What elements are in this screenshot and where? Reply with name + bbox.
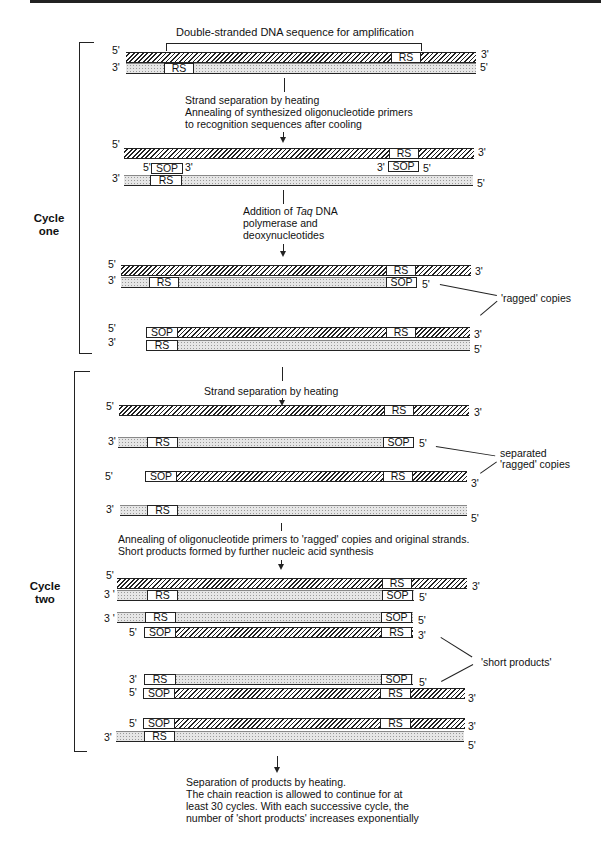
flow-line bbox=[284, 78, 285, 92]
short-products-label: 'short products' bbox=[481, 656, 552, 668]
diagram-title: Double-stranded DNA sequence for amplifi… bbox=[176, 26, 414, 38]
cycle-one-number: one bbox=[24, 225, 74, 238]
cycle-two-label: Cycle two bbox=[20, 580, 70, 606]
title-bracket bbox=[166, 43, 422, 44]
ragged-copy-strand: SOP RS bbox=[144, 718, 465, 729]
step4-line: Annealing of oligonucleotide primers to … bbox=[118, 533, 469, 545]
step2-text: Addition of Taq DNA polymerase and deoxy… bbox=[243, 205, 338, 241]
sop-box: SOP bbox=[146, 327, 178, 338]
ragged-leader-line bbox=[440, 284, 497, 296]
end-label: 5' bbox=[143, 161, 151, 173]
end-label: 3' bbox=[108, 336, 116, 348]
cycle-two-bracket-bottom bbox=[74, 751, 87, 752]
cycle-one-word: Cycle bbox=[24, 212, 74, 225]
ragged-copy-strand: SOP RS bbox=[144, 688, 465, 699]
final-line: number of 'short products' increases exp… bbox=[186, 812, 419, 824]
end-label: 3' bbox=[478, 146, 486, 158]
rs-box: RS bbox=[144, 674, 176, 685]
end-label: 3' bbox=[474, 406, 482, 418]
short-products-leader bbox=[440, 637, 472, 657]
short-products-leader bbox=[441, 664, 473, 682]
rs-box: RS bbox=[144, 731, 175, 742]
sop-box: SOP bbox=[144, 627, 176, 638]
down-arrow-icon bbox=[280, 137, 286, 143]
rs-box: RS bbox=[147, 590, 178, 601]
dna-strand-bottom: RS bbox=[147, 340, 470, 351]
end-label: 3' bbox=[106, 503, 114, 515]
end-label: 3' bbox=[377, 161, 385, 173]
flow-line bbox=[283, 190, 284, 204]
separated-leader-line bbox=[480, 462, 497, 474]
end-label: 5' bbox=[418, 614, 426, 626]
rs-box: RS bbox=[386, 265, 416, 276]
end-label: 3' bbox=[129, 673, 137, 685]
flow-line bbox=[281, 523, 282, 531]
step1-line: to recognition sequences after cooling bbox=[185, 118, 413, 130]
end-label: 5' bbox=[106, 400, 114, 412]
step1-line: Annealing of synthesized oligonucleotide… bbox=[185, 106, 413, 118]
rs-box: RS bbox=[164, 63, 194, 74]
rs-box: RS bbox=[386, 327, 416, 338]
end-label: 3' bbox=[471, 477, 479, 489]
final-text: Separation of products by heating. The c… bbox=[186, 776, 419, 824]
sop-box: SOP bbox=[382, 590, 413, 601]
end-label: 5' bbox=[419, 591, 427, 603]
title-bracket-left bbox=[166, 43, 167, 51]
down-arrow-icon bbox=[278, 564, 284, 570]
step2-line: polymerase and bbox=[243, 217, 338, 229]
end-label: 5' bbox=[419, 437, 427, 449]
dna-strand-top: RS bbox=[117, 578, 467, 589]
end-label: 5' bbox=[477, 177, 485, 189]
end-label: 5' bbox=[105, 470, 113, 482]
step2-post: DNA bbox=[313, 205, 338, 217]
separated-leader-line bbox=[436, 446, 495, 456]
short-product-strand: SOP RS bbox=[145, 627, 413, 638]
step4-text: Annealing of oligonucleotide primers to … bbox=[118, 533, 469, 557]
end-label: 3' bbox=[475, 265, 483, 277]
rs-box: RS bbox=[383, 471, 413, 482]
cycle-two-bracket bbox=[74, 371, 75, 751]
ragged-copy-strand: RS SOP bbox=[121, 277, 417, 288]
end-label: 3' bbox=[468, 720, 476, 732]
short-product-strand: RS SOP bbox=[145, 674, 413, 685]
ragged-copy-strand: SOP RS bbox=[146, 471, 467, 482]
sop-primer: SOP bbox=[151, 163, 183, 174]
end-label: 3' bbox=[474, 328, 482, 340]
rs-box: RS bbox=[149, 277, 179, 288]
dna-strand-bottom: RS bbox=[124, 175, 473, 186]
sop-box: SOP bbox=[383, 437, 414, 448]
rs-box: RS bbox=[147, 437, 178, 448]
rs-box: RS bbox=[381, 627, 412, 638]
step4-line: Short products formed by further nucleic… bbox=[118, 545, 469, 557]
step2-line: deoxynucleotides bbox=[243, 229, 338, 241]
end-label: 5' bbox=[129, 686, 137, 698]
rs-box: RS bbox=[150, 175, 182, 186]
down-arrow-icon bbox=[274, 767, 280, 773]
ragged-copy-strand: SOP RS bbox=[147, 327, 470, 338]
end-label: 5' bbox=[423, 162, 431, 174]
cycle-two-number: two bbox=[20, 593, 70, 606]
end-label: 5' bbox=[112, 138, 120, 150]
cycle-two-word: Cycle bbox=[20, 580, 70, 593]
end-label: 5' bbox=[106, 569, 114, 581]
end-label: 3' bbox=[185, 161, 193, 173]
dna-strand-top: RS bbox=[119, 405, 469, 416]
taq-italic: Taq bbox=[296, 205, 313, 217]
end-label: 3' bbox=[108, 435, 116, 447]
dna-strand-bottom: RS bbox=[120, 505, 467, 516]
sop-box: SOP bbox=[381, 674, 412, 685]
final-line: least 30 cycles. With each successive cy… bbox=[186, 800, 419, 812]
dna-strand-top: RS bbox=[121, 265, 471, 276]
end-label: 5' bbox=[112, 44, 120, 56]
ragged-copy-strand: RS SOP bbox=[118, 437, 414, 448]
rs-box: RS bbox=[145, 612, 176, 623]
cycle-one-bracket bbox=[79, 42, 80, 353]
dna-strand-bottom: RS bbox=[116, 731, 464, 742]
ragged-copy-strand: RS SOP bbox=[117, 590, 414, 601]
separated-line: 'ragged' copies bbox=[500, 459, 570, 470]
title-bracket-right bbox=[421, 43, 422, 51]
step1-line: Strand separation by heating bbox=[185, 94, 413, 106]
separated-ragged-label: separated 'ragged' copies bbox=[500, 448, 570, 470]
rs-box: RS bbox=[146, 340, 178, 351]
end-label: 3 ' bbox=[104, 588, 115, 600]
